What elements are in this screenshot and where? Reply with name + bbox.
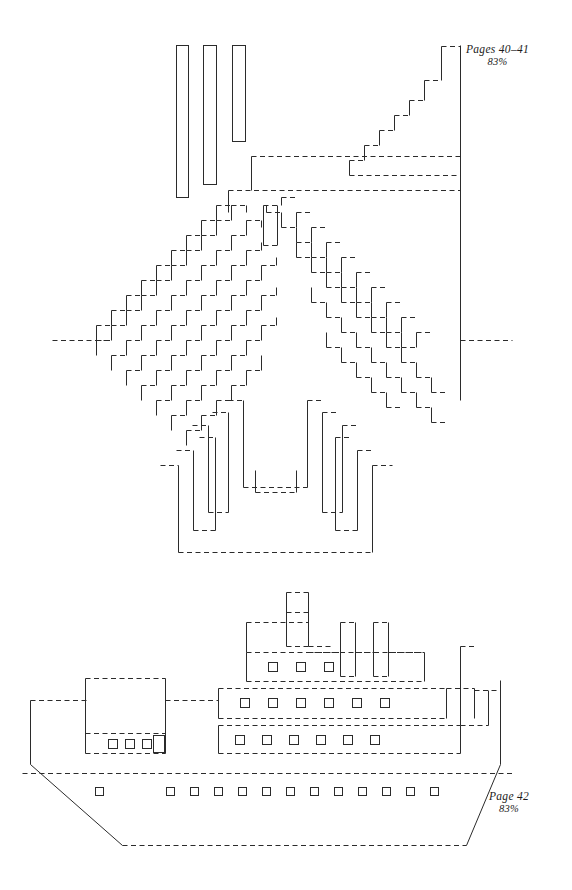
caption-lower-scale: 83% [489,803,529,816]
caption-upper-figure: Pages 40–41 83% [466,42,529,69]
right-descending-stairs [267,198,447,423]
forward-deckhouse [86,679,219,754]
hull-outline [31,681,501,846]
upper-deck-portholes [269,663,334,672]
rail-risers [229,157,252,213]
ship-figure-group [23,593,513,846]
hull-porthole-row [96,788,439,796]
lower-deck-portholes [236,736,380,745]
technical-line-drawing [0,0,572,890]
upper-figure-group [53,46,513,553]
nested-u-shapes [161,401,393,553]
caption-lower-figure: Page 42 83% [489,789,529,816]
caption-upper-scale: 83% [466,56,529,69]
upper-small-block [264,206,278,246]
funnel [287,593,309,647]
top-bars [177,46,246,198]
masts [309,623,425,677]
caption-lower-title: Page 42 [489,789,529,803]
main-superstructure [219,623,501,754]
diagram-stage: Pages 40–41 83% Page 42 83% [0,0,572,890]
left-ascending-stairs [97,206,277,446]
pyramid-mesh [97,198,447,553]
long-rails [229,157,461,191]
middle-deck-portholes [241,699,390,708]
caption-upper-title: Pages 40–41 [466,42,529,56]
